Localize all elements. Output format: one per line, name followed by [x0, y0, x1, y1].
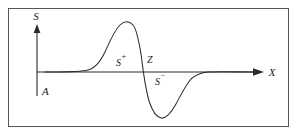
x-axis-label: X [268, 66, 277, 78]
negative-lobe-sign: − [160, 71, 165, 80]
origin-label: A [41, 85, 49, 97]
positive-lobe-sign: + [121, 52, 126, 61]
wavelet-figure: S X A S+ Z S− [0, 0, 299, 136]
zero-crossing-label: Z [147, 54, 153, 65]
figure-background [0, 0, 299, 136]
y-axis-label: S [33, 10, 39, 22]
figure-container: S X A S+ Z S− [0, 0, 299, 136]
